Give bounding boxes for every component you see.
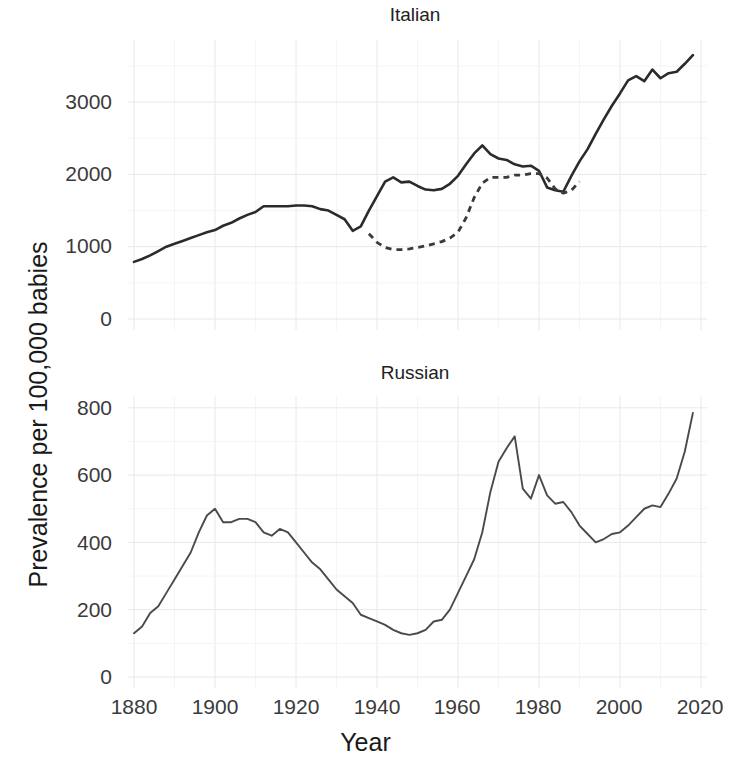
chart-figure: Prevalence per 100,000 babies Year Itali… [0, 0, 731, 763]
italian-solid-line [134, 55, 693, 262]
italian-dashed-line [369, 174, 580, 250]
grid-russian [128, 396, 707, 688]
chart-canvas [0, 0, 731, 763]
russian-solid-line [134, 413, 693, 635]
